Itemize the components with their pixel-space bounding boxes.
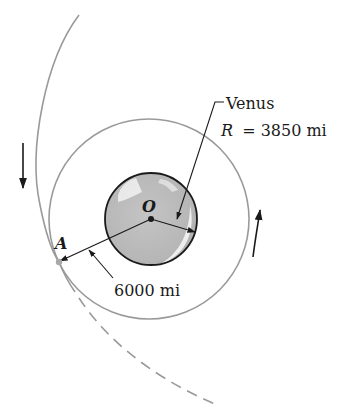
point-a-marker: [56, 259, 62, 265]
radius-value: = 3850 mi: [242, 121, 327, 140]
orbit-direction-arrow: [253, 210, 260, 257]
point-a-label: A: [53, 234, 67, 253]
radius-label: R = 3850 mi: [220, 121, 327, 140]
center-point-o: [148, 216, 154, 222]
distance-leader-line: [89, 250, 113, 278]
orbit-diagram: Venus R = 3850 mi O A 6000 mi: [0, 0, 340, 410]
distance-label: 6000 mi: [114, 281, 180, 300]
radius-var: R: [220, 121, 233, 140]
departure-trajectory: [79, 298, 217, 405]
center-label-o: O: [142, 197, 156, 216]
venus-label: Venus: [225, 94, 274, 113]
